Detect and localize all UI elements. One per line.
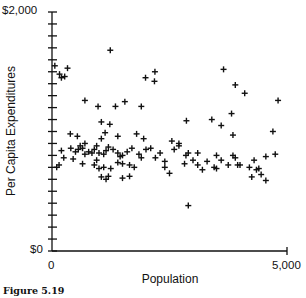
data-point bbox=[108, 166, 114, 172]
data-point bbox=[102, 130, 108, 136]
data-point bbox=[151, 78, 157, 84]
data-point bbox=[221, 66, 227, 72]
data-point bbox=[225, 162, 231, 168]
x-axis bbox=[52, 247, 287, 255]
data-point bbox=[162, 158, 168, 164]
data-point bbox=[127, 173, 133, 179]
data-points bbox=[52, 47, 281, 208]
data-point bbox=[263, 154, 269, 160]
data-point bbox=[80, 161, 86, 167]
y-tick-label-max: $2,000 bbox=[2, 4, 37, 16]
data-point bbox=[195, 162, 201, 168]
data-point bbox=[169, 138, 175, 144]
y-axis-label: Per Capita Expenditures bbox=[4, 66, 18, 196]
data-point bbox=[270, 129, 276, 135]
data-point bbox=[204, 158, 210, 164]
data-point bbox=[143, 75, 149, 81]
data-point bbox=[152, 155, 158, 161]
data-point bbox=[129, 145, 135, 151]
data-point bbox=[195, 150, 201, 156]
data-point bbox=[249, 174, 255, 180]
data-point bbox=[74, 133, 80, 139]
data-point bbox=[98, 136, 104, 142]
x-tick-label-min: 0 bbox=[48, 259, 54, 271]
data-point bbox=[171, 146, 177, 152]
data-point bbox=[162, 164, 168, 170]
data-point bbox=[65, 65, 71, 71]
data-point bbox=[275, 97, 281, 103]
data-point bbox=[182, 161, 188, 167]
data-point bbox=[120, 161, 126, 167]
data-point bbox=[232, 82, 238, 88]
data-point bbox=[157, 150, 163, 156]
data-point bbox=[199, 167, 205, 173]
y-tick-label-min: $0 bbox=[30, 243, 43, 255]
data-point bbox=[96, 150, 102, 156]
data-point bbox=[258, 172, 264, 178]
data-point bbox=[152, 69, 158, 75]
data-point bbox=[98, 119, 104, 125]
data-point bbox=[70, 156, 76, 162]
data-point bbox=[229, 111, 235, 117]
data-point bbox=[214, 152, 220, 158]
data-point bbox=[101, 164, 107, 170]
data-point bbox=[209, 117, 215, 123]
data-point bbox=[148, 145, 154, 151]
data-point bbox=[62, 74, 68, 80]
data-point bbox=[107, 47, 113, 53]
y-axis bbox=[48, 12, 57, 251]
data-point bbox=[115, 160, 121, 166]
data-point bbox=[230, 132, 236, 138]
data-point bbox=[218, 157, 224, 163]
scatter-plot bbox=[0, 0, 306, 298]
data-point bbox=[112, 103, 118, 109]
data-point bbox=[67, 131, 73, 137]
data-point bbox=[134, 131, 140, 137]
data-point bbox=[246, 164, 252, 170]
data-point bbox=[95, 103, 101, 109]
data-point bbox=[61, 155, 67, 161]
data-point bbox=[107, 121, 113, 127]
data-point bbox=[218, 123, 224, 129]
data-point bbox=[272, 151, 278, 157]
data-point bbox=[190, 157, 196, 163]
data-point bbox=[263, 177, 269, 183]
data-point bbox=[124, 149, 130, 155]
data-point bbox=[167, 170, 173, 176]
data-point bbox=[143, 146, 149, 152]
data-point bbox=[138, 103, 144, 109]
x-axis-label: Population bbox=[142, 272, 199, 286]
data-point bbox=[242, 90, 248, 96]
data-point bbox=[68, 145, 74, 151]
data-point bbox=[115, 133, 121, 139]
data-point bbox=[122, 99, 128, 105]
x-tick-label-max: 5,000 bbox=[272, 259, 301, 271]
figure-caption: Figure 5.19 bbox=[3, 285, 64, 296]
data-point bbox=[52, 63, 58, 69]
data-point bbox=[185, 203, 191, 209]
data-point bbox=[82, 97, 88, 103]
data-point bbox=[58, 148, 64, 154]
data-point bbox=[183, 118, 189, 124]
data-point bbox=[141, 136, 147, 142]
data-point bbox=[96, 166, 102, 172]
data-point bbox=[251, 157, 257, 163]
data-point bbox=[120, 175, 126, 181]
